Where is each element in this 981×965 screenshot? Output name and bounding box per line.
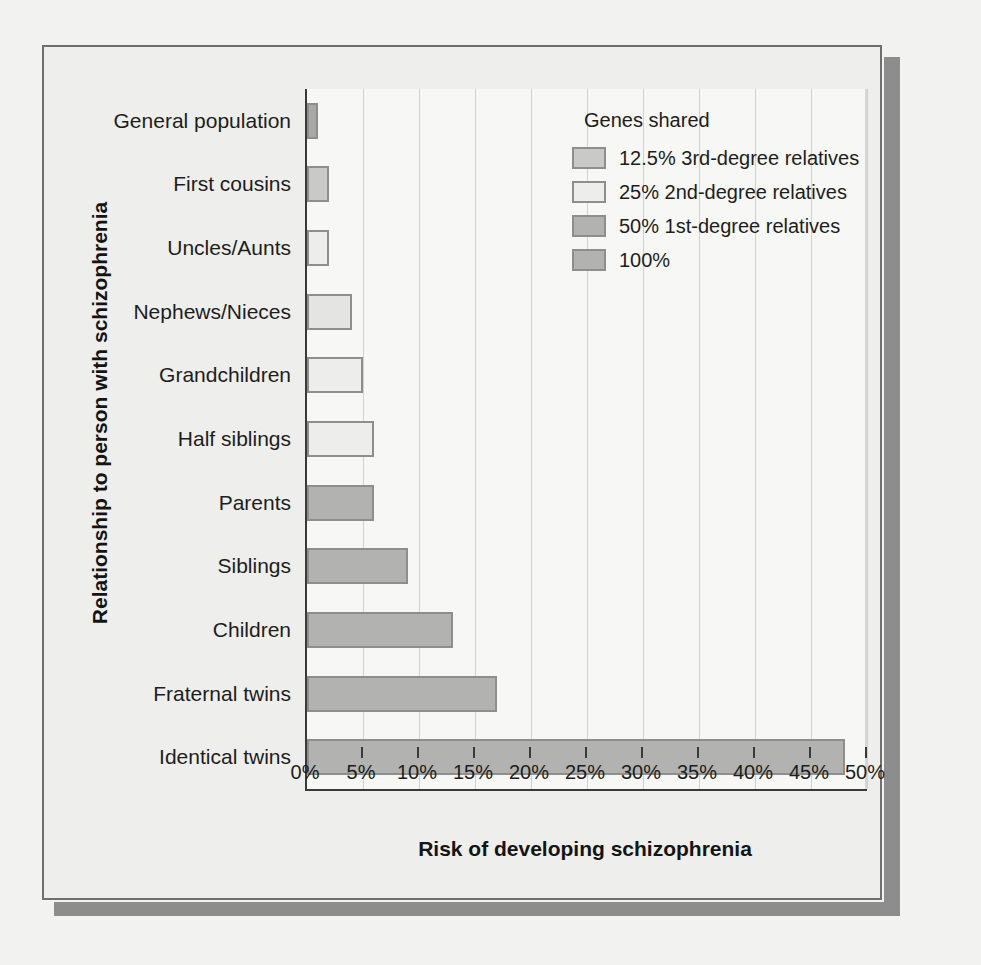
- x-axis-tick-label: 40%: [733, 761, 773, 784]
- bar-row: [307, 407, 867, 471]
- category-label: Grandchildren: [159, 363, 291, 387]
- bar-row: [307, 471, 867, 535]
- legend-items: 12.5% 3rd-degree relatives25% 2nd-degree…: [572, 141, 862, 277]
- bar: [307, 676, 497, 712]
- chart-figure: Relationship to person with schizophreni…: [42, 45, 882, 900]
- gridline: [867, 89, 868, 789]
- legend-label: 100%: [619, 249, 670, 272]
- category-label: General population: [114, 109, 291, 133]
- x-axis-tick-label: 45%: [789, 761, 829, 784]
- category-label: Nephews/Nieces: [133, 300, 291, 324]
- x-axis-tick: [809, 747, 811, 758]
- bar-row: [307, 534, 867, 598]
- x-axis-title: Risk of developing schizophrenia: [305, 837, 865, 861]
- category-label: Identical twins: [159, 745, 291, 769]
- category-label: First cousins: [173, 172, 291, 196]
- category-label: Uncles/Aunts: [167, 236, 291, 260]
- x-axis-tick-label: 10%: [397, 761, 437, 784]
- category-label: Parents: [219, 491, 291, 515]
- bar: [307, 485, 374, 521]
- legend-item: 12.5% 3rd-degree relatives: [572, 141, 862, 175]
- y-axis-title: Relationship to person with schizophreni…: [88, 63, 112, 763]
- legend-title: Genes shared: [584, 109, 862, 132]
- category-label: Siblings: [217, 554, 291, 578]
- category-label: Children: [213, 618, 291, 642]
- x-axis-tick-label: 50%: [845, 761, 885, 784]
- x-axis-tick-label: 15%: [453, 761, 493, 784]
- legend-swatch: [572, 249, 606, 271]
- x-axis-tick: [697, 747, 699, 758]
- bar: [307, 294, 352, 330]
- bar: [307, 612, 453, 648]
- figure-drop-shadow-right: [884, 57, 900, 914]
- bar: [307, 548, 408, 584]
- x-axis-tick-label: 0%: [291, 761, 320, 784]
- legend-label: 50% 1st-degree relatives: [619, 215, 840, 238]
- bar-row: [307, 662, 867, 726]
- x-axis-tick: [529, 747, 531, 758]
- legend-swatch: [572, 215, 606, 237]
- bar: [307, 230, 329, 266]
- bar-row: [307, 598, 867, 662]
- x-axis-tick-label: 35%: [677, 761, 717, 784]
- category-label: Half siblings: [178, 427, 291, 451]
- legend-swatch: [572, 147, 606, 169]
- x-axis-tick: [417, 747, 419, 758]
- bar: [307, 357, 363, 393]
- bar: [307, 166, 329, 202]
- x-axis-tick-label: 30%: [621, 761, 661, 784]
- legend: Genes shared 12.5% 3rd-degree relatives2…: [572, 109, 862, 277]
- bar: [307, 103, 318, 139]
- legend-item: 50% 1st-degree relatives: [572, 209, 862, 243]
- legend-item: 25% 2nd-degree relatives: [572, 175, 862, 209]
- x-axis-tick: [753, 747, 755, 758]
- x-axis-tick-label: 20%: [509, 761, 549, 784]
- legend-label: 25% 2nd-degree relatives: [619, 181, 847, 204]
- x-axis-tick-label: 5%: [347, 761, 376, 784]
- plot-right-border: [865, 89, 867, 789]
- x-axis-tick: [305, 747, 307, 758]
- legend-swatch: [572, 181, 606, 203]
- bar: [307, 421, 374, 457]
- x-axis-tick-label: 25%: [565, 761, 605, 784]
- bar-row: [307, 280, 867, 344]
- x-axis-tick: [641, 747, 643, 758]
- legend-item: 100%: [572, 243, 862, 277]
- x-axis-tick: [361, 747, 363, 758]
- bar-row: [307, 344, 867, 408]
- figure-drop-shadow-bottom: [54, 902, 900, 916]
- x-axis-tick: [865, 747, 867, 758]
- legend-label: 12.5% 3rd-degree relatives: [619, 147, 859, 170]
- category-label: Fraternal twins: [153, 682, 291, 706]
- x-axis-tick: [585, 747, 587, 758]
- x-axis-tick: [473, 747, 475, 758]
